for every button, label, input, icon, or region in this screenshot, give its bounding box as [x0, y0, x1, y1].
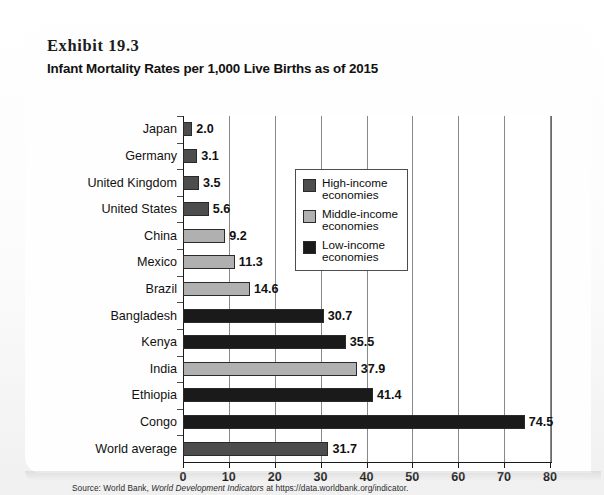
legend-label: Low-income economies: [322, 239, 385, 264]
y-axis-tick: [177, 116, 183, 117]
bar-row: World average31.7: [25, 435, 591, 462]
legend-swatch-low: [303, 241, 316, 254]
chart-legend: High-income economiesMiddle-income econo…: [295, 169, 408, 271]
category-label: Japan: [143, 122, 177, 136]
y-axis-tick: [177, 435, 183, 436]
x-axis-tick: [412, 462, 413, 468]
legend-label: Middle-income economies: [322, 208, 398, 233]
y-axis-tick: [177, 356, 183, 357]
bar-row: India37.9: [25, 356, 591, 383]
bar[interactable]: [183, 149, 197, 163]
exhibit-card: Exhibit 19.3 Infant Mortality Rates per …: [25, 28, 591, 473]
category-label: World average: [95, 442, 177, 456]
y-axis-tick: [177, 382, 183, 383]
source-note: Source: World Bank, World Development In…: [72, 483, 408, 493]
bar-value-label: 31.7: [332, 442, 357, 456]
x-axis-tick-label: 80: [543, 470, 557, 484]
x-axis-tick-label: 50: [405, 470, 419, 484]
category-label: China: [144, 229, 177, 243]
bar[interactable]: [183, 122, 192, 136]
bar-row: Brazil14.6: [25, 276, 591, 303]
category-label: Congo: [140, 415, 177, 429]
bar[interactable]: [183, 176, 199, 190]
bar-value-label: 11.3: [239, 255, 263, 269]
x-axis-tick: [550, 462, 551, 468]
legend-swatch-high: [303, 179, 316, 192]
y-axis-tick: [177, 249, 183, 250]
bar-value-label: 9.2: [229, 229, 247, 243]
bar[interactable]: [183, 442, 328, 456]
y-axis-tick: [177, 143, 183, 144]
x-axis-tick: [321, 462, 322, 468]
x-axis-tick-label: 40: [359, 470, 373, 484]
bar[interactable]: [183, 362, 357, 376]
x-axis-tick: [229, 462, 230, 468]
x-axis-tick: [504, 462, 505, 468]
bar-row: Bangladesh30.7: [25, 302, 591, 329]
bar-value-label: 30.7: [328, 309, 353, 323]
legend-label: High-income economies: [322, 177, 388, 202]
x-axis-tick-label: 70: [497, 470, 511, 484]
legend-item[interactable]: Middle-income economies: [303, 208, 401, 233]
source-suffix: at https://data.worldbank.org/indicator.: [264, 483, 409, 493]
bar-row: Germany3.1: [25, 143, 591, 170]
x-axis-tick: [458, 462, 459, 468]
y-axis-tick: [177, 169, 183, 170]
category-label: India: [150, 362, 177, 376]
y-axis-tick: [177, 196, 183, 197]
y-axis-tick: [177, 302, 183, 303]
category-label: United Kingdom: [87, 176, 177, 190]
y-axis-tick: [177, 329, 183, 330]
exhibit-title: Infant Mortality Rates per 1,000 Live Bi…: [47, 61, 378, 76]
x-axis-tick-label: 20: [268, 470, 282, 484]
x-axis-tick-label: 10: [222, 470, 236, 484]
x-axis-tick: [367, 462, 368, 468]
x-axis-tick-label: 0: [179, 470, 186, 484]
bar-row: Congo74.5: [25, 409, 591, 436]
category-label: Brazil: [146, 282, 178, 296]
category-label: United States: [101, 202, 177, 216]
bar-value-label: 37.9: [361, 362, 386, 376]
bar-value-label: 41.4: [377, 388, 402, 402]
category-label: Ethiopia: [131, 388, 177, 402]
bar-value-label: 3.1: [201, 149, 219, 163]
legend-item[interactable]: Low-income economies: [303, 239, 401, 264]
bar-value-label: 2.0: [196, 122, 214, 136]
source-italic: World Development Indicators: [151, 483, 264, 493]
bar[interactable]: [183, 415, 525, 429]
page-background: Exhibit 19.3 Infant Mortality Rates per …: [0, 0, 604, 495]
bar[interactable]: [183, 229, 225, 243]
source-prefix: Source: World Bank,: [72, 483, 151, 493]
bar-row: Ethiopia41.4: [25, 382, 591, 409]
category-label: Germany: [125, 149, 177, 163]
category-label: Bangladesh: [110, 309, 177, 323]
bar-value-label: 14.6: [254, 282, 279, 296]
bar-row: Kenya35.5: [25, 329, 591, 356]
category-label: Kenya: [141, 335, 177, 349]
x-axis-tick: [275, 462, 276, 468]
bar[interactable]: [183, 202, 209, 216]
bar[interactable]: [183, 335, 346, 349]
bar[interactable]: [183, 388, 373, 402]
x-axis-tick-label: 60: [451, 470, 465, 484]
y-axis-tick: [177, 222, 183, 223]
bar-value-label: 3.5: [203, 176, 221, 190]
legend-swatch-middle: [303, 210, 316, 223]
x-axis-tick: [183, 462, 184, 468]
bar-chart: Japan2.0Germany3.1United Kingdom3.5Unite…: [25, 88, 591, 473]
bar[interactable]: [183, 282, 250, 296]
bar-value-label: 35.5: [350, 335, 375, 349]
legend-item[interactable]: High-income economies: [303, 177, 401, 202]
exhibit-number: Exhibit 19.3: [47, 36, 139, 56]
bar[interactable]: [183, 309, 324, 323]
bar-value-label: 5.6: [213, 202, 231, 216]
y-axis-tick: [177, 276, 183, 277]
category-label: Mexico: [137, 255, 177, 269]
y-axis-tick: [177, 409, 183, 410]
bar-row: Japan2.0: [25, 116, 591, 143]
x-axis-line: [183, 462, 552, 463]
bar-value-label: 74.5: [529, 415, 554, 429]
bar[interactable]: [183, 255, 235, 269]
x-axis-tick-label: 30: [314, 470, 328, 484]
